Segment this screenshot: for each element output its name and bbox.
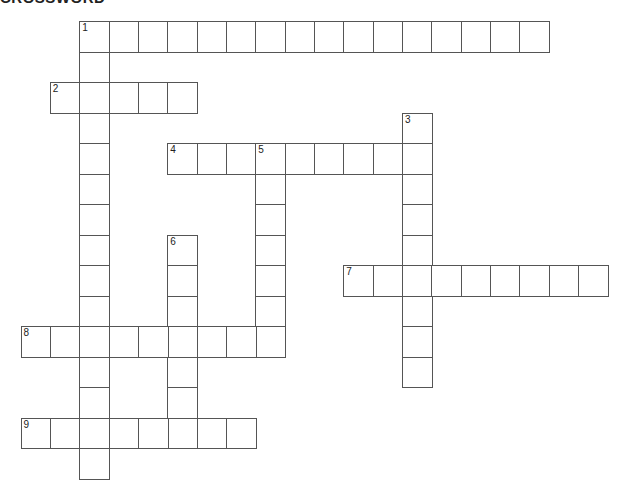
crossword-cell[interactable]: 9 xyxy=(21,418,52,450)
crossword-cell[interactable] xyxy=(402,265,433,297)
crossword-cell[interactable] xyxy=(197,21,228,53)
crossword-cell[interactable] xyxy=(167,265,198,297)
crossword-cell[interactable] xyxy=(343,21,374,53)
crossword-cell[interactable]: 2 xyxy=(50,82,81,114)
crossword-cell[interactable] xyxy=(167,418,198,450)
crossword-cell[interactable] xyxy=(79,448,110,480)
crossword-cell[interactable] xyxy=(109,82,140,114)
crossword-cell[interactable] xyxy=(578,265,609,297)
crossword-cell[interactable] xyxy=(255,204,286,236)
crossword-cell[interactable] xyxy=(79,52,110,84)
clue-number: 6 xyxy=(170,237,176,247)
clue-number: 9 xyxy=(24,420,30,430)
clue-number: 3 xyxy=(405,115,411,125)
crossword-cell[interactable] xyxy=(79,82,110,114)
crossword-cell[interactable] xyxy=(50,326,81,358)
crossword-cell[interactable] xyxy=(79,143,110,175)
crossword-cell[interactable] xyxy=(167,357,198,389)
crossword-cell[interactable] xyxy=(197,143,228,175)
crossword-cell[interactable] xyxy=(519,21,550,53)
crossword-cell[interactable] xyxy=(79,296,110,328)
clue-number: 4 xyxy=(170,145,176,155)
crossword-cell[interactable] xyxy=(373,21,404,53)
crossword-cell[interactable] xyxy=(285,143,316,175)
crossword-cell[interactable] xyxy=(431,265,462,297)
crossword-cell[interactable] xyxy=(167,82,198,114)
crossword-cell[interactable] xyxy=(402,235,433,267)
crossword-cell[interactable] xyxy=(167,21,198,53)
crossword-cell[interactable] xyxy=(79,326,110,358)
crossword-cell[interactable] xyxy=(255,265,286,297)
crossword-cell[interactable] xyxy=(461,21,492,53)
crossword-cell[interactable]: 5 xyxy=(255,143,286,175)
crossword-cell[interactable] xyxy=(138,21,169,53)
crossword-cell[interactable]: 7 xyxy=(343,265,374,297)
crossword-cell[interactable] xyxy=(255,296,286,328)
crossword-cell[interactable] xyxy=(226,326,257,358)
crossword-cell[interactable] xyxy=(138,326,169,358)
crossword-cell[interactable] xyxy=(402,326,433,358)
clue-number: 5 xyxy=(258,145,264,155)
crossword-cell[interactable] xyxy=(490,265,521,297)
crossword-cell[interactable] xyxy=(79,418,110,450)
crossword-cell[interactable] xyxy=(402,21,433,53)
crossword-cell[interactable]: 4 xyxy=(167,143,198,175)
crossword-cell[interactable] xyxy=(109,418,140,450)
crossword-cell[interactable] xyxy=(549,265,580,297)
crossword-cell[interactable] xyxy=(79,265,110,297)
crossword-cell[interactable] xyxy=(79,204,110,236)
page-title: CROSSWORD xyxy=(0,0,105,6)
crossword-cell[interactable] xyxy=(373,265,404,297)
crossword-cell[interactable] xyxy=(255,235,286,267)
crossword-cell[interactable] xyxy=(138,418,169,450)
crossword-cell[interactable] xyxy=(79,113,110,145)
crossword-cell[interactable] xyxy=(343,143,374,175)
crossword-cell[interactable] xyxy=(402,357,433,389)
clue-number: 1 xyxy=(82,23,88,33)
crossword-cell[interactable] xyxy=(138,82,169,114)
crossword-cell[interactable] xyxy=(461,265,492,297)
crossword-cell[interactable] xyxy=(402,204,433,236)
crossword-cell[interactable] xyxy=(197,326,228,358)
crossword-cell[interactable] xyxy=(373,143,404,175)
crossword-cell[interactable] xyxy=(50,418,81,450)
crossword-cell[interactable] xyxy=(402,143,433,175)
crossword-cell[interactable] xyxy=(109,21,140,53)
crossword-cell[interactable] xyxy=(79,357,110,389)
crossword-cell[interactable] xyxy=(167,326,198,358)
clue-number: 2 xyxy=(53,84,59,94)
crossword-cell[interactable] xyxy=(314,21,345,53)
crossword-cell[interactable]: 6 xyxy=(167,235,198,267)
crossword-cell[interactable] xyxy=(226,21,257,53)
crossword-cell[interactable] xyxy=(402,174,433,206)
crossword-cell[interactable] xyxy=(402,296,433,328)
crossword-cell[interactable]: 1 xyxy=(79,21,110,53)
crossword-cell[interactable]: 3 xyxy=(402,113,433,145)
crossword-cell[interactable] xyxy=(79,174,110,206)
crossword-cell[interactable]: 8 xyxy=(21,326,52,358)
crossword-cell[interactable] xyxy=(226,143,257,175)
crossword-cell[interactable] xyxy=(314,143,345,175)
crossword-cell[interactable] xyxy=(431,21,462,53)
crossword-cell[interactable] xyxy=(255,326,286,358)
crossword-cell[interactable] xyxy=(255,174,286,206)
crossword-cell[interactable] xyxy=(255,21,286,53)
crossword-cell[interactable] xyxy=(285,21,316,53)
crossword-cell[interactable] xyxy=(109,326,140,358)
crossword-cell[interactable] xyxy=(490,21,521,53)
crossword-cell[interactable] xyxy=(79,235,110,267)
crossword-cell[interactable] xyxy=(197,418,228,450)
clue-number: 8 xyxy=(24,328,30,338)
crossword-cell[interactable] xyxy=(79,387,110,419)
crossword-cell[interactable] xyxy=(167,296,198,328)
crossword-cell[interactable] xyxy=(226,418,257,450)
crossword-cell[interactable] xyxy=(167,387,198,419)
clue-number: 7 xyxy=(346,267,352,277)
crossword-cell[interactable] xyxy=(519,265,550,297)
